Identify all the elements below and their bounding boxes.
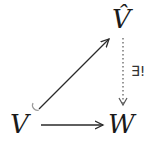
unique-existence-label: ∃! bbox=[131, 64, 145, 78]
node-w: W bbox=[108, 111, 135, 137]
inclusion-arrow bbox=[32, 39, 109, 110]
node-v-hat: V̂ bbox=[112, 6, 131, 32]
node-v: V bbox=[10, 111, 29, 137]
commutative-diagram: V W V̂ ∃! bbox=[0, 0, 155, 144]
unique-extension-arrow bbox=[119, 38, 127, 105]
hook-tail-icon bbox=[32, 103, 39, 110]
